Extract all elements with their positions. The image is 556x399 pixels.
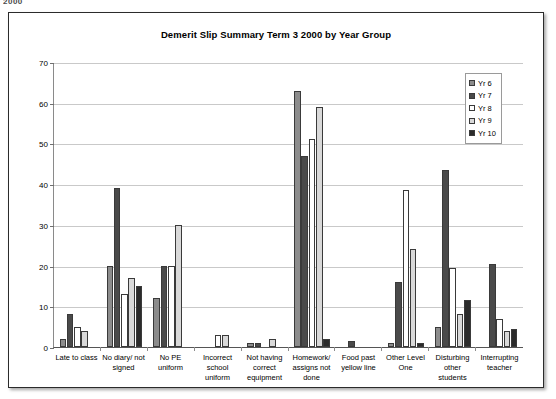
plot-area: 010203040506070 xyxy=(53,63,523,348)
bar-yr-10[interactable] xyxy=(464,300,471,347)
y-axis-tick-label: 0 xyxy=(44,344,48,353)
x-axis-tick xyxy=(147,347,148,351)
bar-yr-8[interactable] xyxy=(215,335,222,347)
bar-yr-9[interactable] xyxy=(81,331,88,347)
bar-yr-9[interactable] xyxy=(410,249,417,347)
bar-yr-6[interactable] xyxy=(435,327,442,347)
bar-yr-7[interactable] xyxy=(442,170,449,347)
bar-yr-8[interactable] xyxy=(449,268,456,347)
bar-yr-9[interactable] xyxy=(128,278,135,347)
legend-item[interactable]: Yr 8 xyxy=(469,102,496,115)
bar-yr-8[interactable] xyxy=(403,190,410,347)
bar-yr-9[interactable] xyxy=(269,339,276,347)
bar-yr-7[interactable] xyxy=(301,156,308,347)
bar-yr-8[interactable] xyxy=(121,294,128,347)
bar-yr-7[interactable] xyxy=(395,282,402,347)
x-axis-category-label: Interrupting teacher xyxy=(476,353,523,383)
bar-group xyxy=(242,63,289,347)
chart-title: Demerit Slip Summary Term 3 2000 by Year… xyxy=(9,29,543,40)
bar-yr-6[interactable] xyxy=(294,91,301,348)
bar-group xyxy=(289,63,336,347)
legend-item[interactable]: Yr 6 xyxy=(469,77,496,90)
x-axis-tick xyxy=(241,347,242,351)
x-axis-labels: Late to classNo diary/ not signedNo PE u… xyxy=(53,353,523,383)
x-axis-tick xyxy=(100,347,101,351)
bar-yr-7[interactable] xyxy=(255,343,262,347)
bar-yr-9[interactable] xyxy=(222,335,229,347)
bar-yr-8[interactable] xyxy=(168,266,175,347)
bar-yr-10[interactable] xyxy=(136,286,143,347)
legend-item[interactable]: Yr 7 xyxy=(469,90,496,103)
legend-label: Yr 8 xyxy=(478,104,492,113)
legend-label: Yr 6 xyxy=(478,79,492,88)
legend-swatch-icon xyxy=(469,80,475,86)
bar-yr-8[interactable] xyxy=(496,319,503,348)
bar-yr-6[interactable] xyxy=(107,266,114,347)
x-axis-tick xyxy=(334,347,335,351)
chart-legend: Yr 6Yr 7Yr 8Yr 9Yr 10 xyxy=(465,73,502,144)
x-axis-category-label: Other Level One xyxy=(382,353,429,383)
x-axis-category-label: No PE uniform xyxy=(147,353,194,383)
x-axis-category-label: Incorrect school uniform xyxy=(194,353,241,383)
legend-label: Yr 7 xyxy=(478,91,492,100)
bar-group xyxy=(54,63,101,347)
x-axis-tick xyxy=(475,347,476,351)
bar-yr-9[interactable] xyxy=(316,107,323,347)
bar-yr-10[interactable] xyxy=(323,339,330,347)
y-axis-tick-label: 40 xyxy=(39,181,48,190)
legend-label: Yr 10 xyxy=(478,129,496,138)
y-axis-tick xyxy=(50,348,54,349)
bar-yr-7[interactable] xyxy=(348,341,355,347)
bar-yr-9[interactable] xyxy=(457,314,464,347)
y-axis-tick-label: 10 xyxy=(39,303,48,312)
chart-frame: Demerit Slip Summary Term 3 2000 by Year… xyxy=(8,12,544,388)
x-axis-tick xyxy=(288,347,289,351)
scan-artifact-text: 2000 xyxy=(3,0,23,6)
bar-yr-9[interactable] xyxy=(504,331,511,347)
legend-item[interactable]: Yr 9 xyxy=(469,115,496,128)
legend-item[interactable]: Yr 10 xyxy=(469,127,496,140)
x-axis-category-label: No diary/ not signed xyxy=(100,353,147,383)
x-axis-category-label: Disturbing other students xyxy=(429,353,476,383)
y-axis-tick-label: 60 xyxy=(39,99,48,108)
bar-group xyxy=(382,63,429,347)
legend-label: Yr 9 xyxy=(478,116,492,125)
legend-swatch-icon xyxy=(469,130,475,136)
bar-yr-6[interactable] xyxy=(247,343,254,347)
legend-swatch-icon xyxy=(469,105,475,111)
x-axis-category-label: Not having correct equipment xyxy=(241,353,288,383)
y-axis-tick-label: 20 xyxy=(39,262,48,271)
x-axis-category-label: Homework/ assigns not done xyxy=(288,353,335,383)
bar-yr-8[interactable] xyxy=(74,327,81,347)
bar-group xyxy=(195,63,242,347)
bar-yr-7[interactable] xyxy=(489,264,496,347)
legend-swatch-icon xyxy=(469,118,475,124)
x-axis-tick xyxy=(194,347,195,351)
bar-yr-7[interactable] xyxy=(161,266,168,347)
bar-yr-6[interactable] xyxy=(153,298,160,347)
bar-yr-6[interactable] xyxy=(60,339,67,347)
y-axis-tick-label: 70 xyxy=(39,59,48,68)
bar-yr-9[interactable] xyxy=(175,225,182,347)
legend-swatch-icon xyxy=(469,93,475,99)
x-axis-tick xyxy=(428,347,429,351)
bar-yr-7[interactable] xyxy=(114,188,121,347)
x-axis-tick xyxy=(381,347,382,351)
bar-group xyxy=(101,63,148,347)
bar-yr-10[interactable] xyxy=(417,343,424,347)
bar-yr-6[interactable] xyxy=(388,343,395,347)
x-axis-category-label: Food past yellow line xyxy=(335,353,382,383)
bar-yr-8[interactable] xyxy=(309,139,316,347)
bar-yr-7[interactable] xyxy=(67,314,74,347)
x-axis-category-label: Late to class xyxy=(53,353,100,383)
y-axis-tick-label: 50 xyxy=(39,140,48,149)
y-axis-tick-label: 30 xyxy=(39,221,48,230)
bar-yr-10[interactable] xyxy=(511,329,518,347)
bar-group xyxy=(148,63,195,347)
bar-group xyxy=(335,63,382,347)
bars-layer xyxy=(54,63,523,347)
